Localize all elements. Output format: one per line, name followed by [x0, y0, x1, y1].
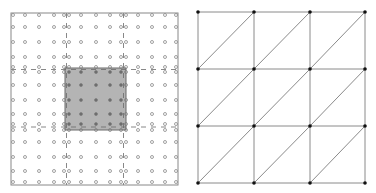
grid-point-circle — [68, 141, 71, 144]
grid-point-circle — [164, 71, 167, 74]
mesh-diagonal-edge — [198, 69, 254, 126]
grid-point-circle — [68, 41, 71, 44]
triangulated-mesh-panel — [196, 10, 367, 185]
grid-point-circle — [137, 181, 140, 184]
grid-point-circle — [109, 181, 112, 184]
grid-point-circle — [151, 113, 154, 116]
grid-point-circle — [63, 41, 66, 44]
grid-point-dot — [68, 113, 71, 116]
grid-point-circle — [38, 170, 41, 173]
grid-point-circle — [53, 129, 56, 132]
grid-point-circle — [53, 170, 56, 173]
grid-point-circle — [95, 181, 98, 184]
grid-point-circle — [63, 181, 66, 184]
grid-point-circle — [95, 170, 98, 173]
grid-point-circle — [164, 26, 167, 29]
grid-point-circle — [38, 156, 41, 159]
mesh-diagonal-edge — [310, 69, 365, 126]
grid-point-circle — [38, 113, 41, 116]
grid-point-circle — [38, 71, 41, 74]
grid-point-dot — [68, 71, 71, 74]
grid-point-circle — [12, 99, 15, 102]
grid-point-circle — [63, 56, 66, 59]
grid-point-circle — [38, 141, 41, 144]
grid-point-circle — [53, 113, 56, 116]
grid-point-circle — [12, 123, 15, 126]
grid-point-circle — [109, 141, 112, 144]
grid-point-circle — [80, 56, 83, 59]
grid-point-circle — [175, 181, 178, 184]
grid-point-circle — [38, 66, 41, 69]
grid-point-circle — [24, 113, 27, 116]
grid-point-circle — [151, 71, 154, 74]
grid-point-dot — [120, 71, 123, 74]
grid-point-circle — [63, 156, 66, 159]
mesh-diagonal-edge — [254, 69, 310, 126]
grid-point-circle — [137, 156, 140, 159]
grid-point-dot — [80, 99, 83, 102]
grid-point-circle — [175, 41, 178, 44]
grid-point-circle — [38, 26, 41, 29]
grid-point-circle — [175, 113, 178, 116]
grid-point-circle — [24, 99, 27, 102]
grid-point-circle — [38, 181, 41, 184]
grid-point-dot — [109, 71, 112, 74]
grid-point-circle — [151, 26, 154, 29]
grid-point-dot — [95, 99, 98, 102]
mesh-node — [252, 67, 256, 71]
grid-point-circle — [137, 99, 140, 102]
grid-point-dot — [80, 84, 83, 87]
grid-point-dot — [109, 113, 112, 116]
grid-point-circle — [164, 84, 167, 87]
mesh-node — [252, 181, 256, 185]
grid-point-circle — [175, 156, 178, 159]
grid-point-circle — [63, 26, 66, 29]
mesh-node — [308, 67, 312, 71]
grid-point-circle — [125, 181, 128, 184]
grid-point-circle — [137, 113, 140, 116]
grid-point-circle — [120, 26, 123, 29]
grid-point-circle — [125, 14, 128, 17]
grid-point-circle — [151, 14, 154, 17]
grid-point-circle — [95, 156, 98, 159]
grid-point-circle — [151, 41, 154, 44]
grid-point-dot — [68, 84, 71, 87]
grid-point-circle — [175, 26, 178, 29]
grid-point-circle — [53, 141, 56, 144]
grid-point-circle — [164, 156, 167, 159]
grid-point-circle — [24, 56, 27, 59]
grid-point-circle — [38, 84, 41, 87]
grid-point-circle — [151, 181, 154, 184]
grid-point-circle — [38, 99, 41, 102]
grid-point-circle — [24, 156, 27, 159]
grid-point-circle — [80, 26, 83, 29]
grid-point-circle — [12, 156, 15, 159]
grid-point-circle — [120, 170, 123, 173]
grid-point-circle — [175, 14, 178, 17]
grid-point-circle — [12, 113, 15, 116]
grid-point-circle — [151, 99, 154, 102]
grid-point-circle — [120, 14, 123, 17]
grid-point-circle — [63, 66, 66, 69]
grid-point-circle — [137, 56, 140, 59]
grid-point-circle — [109, 14, 112, 17]
grid-point-circle — [109, 156, 112, 159]
grid-point-circle — [164, 129, 167, 132]
grid-point-circle — [175, 170, 178, 173]
grid-point-circle — [175, 123, 178, 126]
grid-point-circle — [80, 156, 83, 159]
grid-point-dot — [68, 99, 71, 102]
mesh-node — [363, 181, 367, 185]
grid-point-circle — [53, 71, 56, 74]
grid-point-circle — [12, 26, 15, 29]
grid-point-circle — [175, 71, 178, 74]
grid-point-circle — [12, 141, 15, 144]
grid-point-circle — [164, 181, 167, 184]
grid-point-circle — [53, 26, 56, 29]
grid-point-circle — [80, 14, 83, 17]
grid-point-circle — [151, 141, 154, 144]
grid-point-circle — [53, 156, 56, 159]
grid-point-circle — [125, 170, 128, 173]
grid-point-circle — [80, 141, 83, 144]
grid-point-dot — [109, 99, 112, 102]
